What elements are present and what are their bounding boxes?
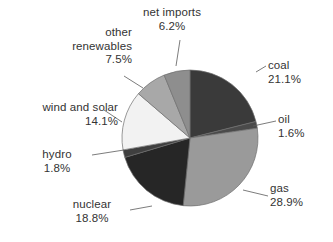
callout-oil-value: 1.6% bbox=[278, 127, 328, 141]
pie-chart-figure: coal 21.1% oil 1.6% gas 28.9% nuclear 18… bbox=[0, 0, 333, 242]
callout-gas: gas 28.9% bbox=[270, 182, 328, 209]
callout-nuclear: nuclear 18.8% bbox=[56, 198, 128, 225]
callout-hydro-value: 1.8% bbox=[24, 162, 90, 176]
leader-line-hydro bbox=[92, 150, 124, 155]
callout-coal-label: coal bbox=[268, 59, 290, 71]
callout-net-imports-label: net imports bbox=[143, 6, 201, 18]
callout-wind-and-solar-value: 14.1% bbox=[6, 115, 118, 129]
callout-wind-and-solar-label: wind and solar bbox=[42, 101, 118, 113]
callout-oil: oil 1.6% bbox=[278, 113, 328, 140]
callout-oil-label: oil bbox=[278, 113, 290, 125]
callout-nuclear-value: 18.8% bbox=[56, 212, 128, 226]
pie-slices-group bbox=[122, 70, 258, 206]
callout-hydro-label: hydro bbox=[42, 148, 71, 160]
callout-other-renewables-value: 7.5% bbox=[34, 53, 132, 67]
callout-net-imports: net imports 6.2% bbox=[124, 6, 220, 33]
callout-net-imports-value: 6.2% bbox=[124, 20, 220, 34]
callout-gas-label: gas bbox=[270, 182, 289, 194]
pie-slice-gas bbox=[183, 128, 258, 206]
callout-other-renewables-label-line2: renewables bbox=[34, 40, 132, 54]
leader-line-gas bbox=[243, 190, 268, 196]
leader-line-other-renewables bbox=[124, 76, 143, 88]
callout-gas-value: 28.9% bbox=[270, 196, 328, 210]
leader-line-coal bbox=[256, 66, 266, 72]
leader-line-net-imports bbox=[176, 40, 180, 66]
callout-coal: coal 21.1% bbox=[268, 59, 328, 86]
callout-coal-value: 21.1% bbox=[268, 73, 328, 87]
callout-wind-and-solar: wind and solar 14.1% bbox=[6, 101, 118, 128]
leader-line-nuclear bbox=[130, 206, 152, 210]
callout-hydro: hydro 1.8% bbox=[24, 148, 90, 175]
callout-other-renewables: other renewables 7.5% bbox=[34, 26, 132, 67]
callout-nuclear-label: nuclear bbox=[73, 198, 111, 210]
